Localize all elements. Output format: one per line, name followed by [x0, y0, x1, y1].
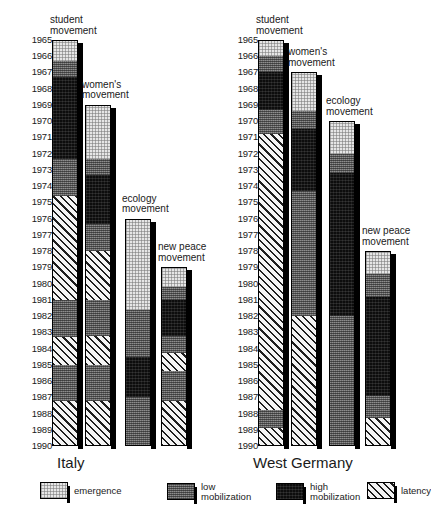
year-tick-label: 1973 [238, 165, 258, 175]
legend-item-emergence[interactable]: emergence [40, 482, 122, 499]
legend-swatch-shadow [194, 487, 197, 504]
bar-segment-low-mobilization [292, 111, 316, 129]
bar-shadow [355, 124, 360, 449]
movement-bar[interactable] [161, 267, 187, 446]
bar-segment-high-mobilization [292, 129, 316, 191]
bar-segment-latency [162, 401, 186, 446]
bar-segment-low-mobilization [330, 154, 354, 173]
year-tick-label: 1967 [32, 67, 52, 77]
legend-item-latency[interactable]: latency [367, 482, 431, 499]
legend-item-high-mobilization[interactable]: high mobilization [276, 482, 360, 502]
country-label: Italy [57, 455, 85, 470]
bar-segment-latency [292, 316, 316, 446]
bar-segment-latency [53, 401, 77, 446]
year-tick-label: 1968 [32, 84, 52, 94]
bar-segment-low-mobilization [86, 300, 110, 336]
bar-segment-low-mobilization [366, 274, 390, 297]
year-tick-label: 1966 [32, 51, 52, 61]
year-tick-label: 1979 [238, 262, 258, 272]
year-tick-label: 1975 [32, 197, 52, 207]
bar-body [258, 40, 284, 446]
bar-segment-low-mobilization [53, 159, 77, 196]
legend-label: emergence [74, 486, 122, 496]
year-tick-label: 1986 [238, 376, 258, 386]
bar-shadow [78, 43, 83, 449]
year-tick-label: 1981 [32, 295, 52, 305]
movement-bar[interactable] [258, 40, 284, 446]
year-tick-label: 1980 [32, 279, 52, 289]
year-tick-label: 1986 [32, 376, 52, 386]
bar-segment-high-mobilization [366, 297, 390, 396]
year-tick-label: 1965 [32, 35, 52, 45]
legend-swatch-latency [367, 482, 395, 499]
bar-shadow [284, 43, 289, 449]
year-tick-label: 1990 [32, 441, 52, 451]
year-tick-label: 1984 [238, 344, 258, 354]
year-tick-label: 1989 [32, 425, 52, 435]
legend-item-low-mobilization[interactable]: low mobilization [167, 482, 251, 502]
legend-label: high mobilization [310, 482, 360, 502]
year-tick-label: 1972 [32, 149, 52, 159]
bar-body [291, 72, 317, 446]
year-tick-label: 1976 [238, 214, 258, 224]
bar-segment-low-mobilization [292, 191, 316, 316]
bar-segment-high-mobilization [330, 173, 354, 316]
legend-label: low mobilization [201, 482, 251, 502]
year-tick-label: 1988 [238, 409, 258, 419]
year-tick-label: 1985 [238, 360, 258, 370]
year-tick-label: 1977 [238, 230, 258, 240]
movement-label: new peace movement [362, 226, 410, 247]
bar-segment-emergence [86, 105, 110, 159]
bar-segment-high-mobilization [126, 357, 150, 398]
year-tick-label: 1983 [32, 327, 52, 337]
year-tick-label: 1987 [32, 392, 52, 402]
year-tick-label: 1983 [238, 327, 258, 337]
year-tick-label: 1971 [238, 132, 258, 142]
legend-swatch-shadow [394, 486, 397, 503]
year-tick-label: 1969 [238, 100, 258, 110]
movement-bar[interactable] [329, 121, 355, 446]
year-tick-label: 1967 [238, 67, 258, 77]
bar-body [329, 121, 355, 446]
movement-bar[interactable] [365, 251, 391, 446]
bar-body [365, 251, 391, 446]
movement-bar[interactable] [85, 105, 111, 446]
bar-segment-emergence [366, 251, 390, 274]
bar-segment-emergence [53, 40, 77, 61]
bar-segment-emergence [292, 72, 316, 111]
movement-bar[interactable] [291, 72, 317, 446]
year-tick-label: 1990 [238, 441, 258, 451]
year-tick-label: 1980 [238, 279, 258, 289]
bar-segment-low-mobilization [259, 410, 283, 428]
year-tick-label: 1974 [238, 181, 258, 191]
bar-shadow [391, 254, 396, 449]
legend-swatch-shadow [67, 486, 70, 503]
bar-segment-emergence [330, 121, 354, 153]
bar-body [85, 105, 111, 446]
bar-segment-emergence [162, 267, 186, 286]
bar-segment-latency [366, 418, 390, 446]
movement-label: student movement [256, 15, 303, 36]
bar-segment-low-mobilization [86, 224, 110, 252]
year-tick-label: 1988 [32, 409, 52, 419]
legend-swatch-high-mobilization [276, 483, 304, 500]
bar-body [161, 267, 187, 446]
bar-segment-latency [53, 337, 77, 365]
year-axis: 1965196619671968196919701971197219731974… [18, 0, 52, 470]
bar-segment-high-mobilization [86, 175, 110, 224]
year-tick-label: 1966 [238, 51, 258, 61]
bar-segment-latency [53, 196, 77, 300]
year-tick-label: 1965 [238, 35, 258, 45]
bar-segment-latency [86, 251, 110, 300]
legend-swatch-emergence [40, 482, 68, 499]
bar-body [52, 40, 78, 446]
bar-segment-low-mobilization [366, 396, 390, 419]
movement-label: ecology movement [326, 96, 373, 117]
bar-segment-latency [259, 428, 283, 446]
movement-bar[interactable] [52, 40, 78, 446]
movement-bar[interactable] [125, 219, 151, 446]
bar-segment-low-mobilization [53, 300, 77, 337]
bar-segment-low-mobilization [53, 365, 77, 401]
bar-segment-high-mobilization [53, 77, 77, 158]
bar-segment-low-mobilization [330, 316, 354, 446]
